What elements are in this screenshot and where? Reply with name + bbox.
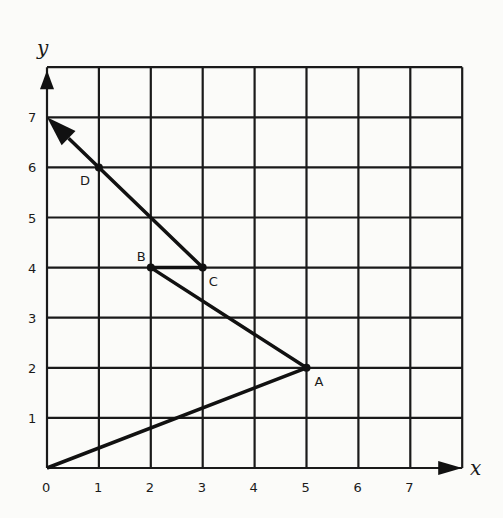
x-tick-label: 0 <box>42 480 50 495</box>
point-marker <box>95 163 103 171</box>
point-label-b: B <box>137 249 146 264</box>
point-label-a: A <box>315 374 324 389</box>
axes <box>40 70 462 475</box>
y-tick-label: 3 <box>28 311 36 326</box>
y-axis-arrow-icon <box>40 70 54 89</box>
coordinate-grid: 012345671234567 ABCD x y <box>0 0 503 518</box>
y-tick-label: 2 <box>28 361 36 376</box>
x-tick-label: 6 <box>353 480 361 495</box>
x-tick-label: 1 <box>94 480 102 495</box>
point-marker <box>303 364 311 372</box>
point-marker <box>147 264 155 272</box>
point-label-c: C <box>209 274 218 289</box>
x-axis-label: x <box>470 456 481 480</box>
x-tick-label: 5 <box>302 480 310 495</box>
y-tick-label: 7 <box>28 110 36 125</box>
y-tick-label: 6 <box>28 160 36 175</box>
y-axis-label: y <box>36 36 49 60</box>
x-tick-label: 2 <box>146 480 154 495</box>
x-tick-label: 7 <box>405 480 413 495</box>
path <box>47 117 307 468</box>
y-tick-label: 1 <box>28 411 36 426</box>
grid-lines <box>47 67 462 468</box>
x-tick-label: 4 <box>250 480 258 495</box>
y-tick-label: 4 <box>28 261 36 276</box>
x-axis-arrow-icon <box>438 461 462 475</box>
y-tick-label: 5 <box>28 211 36 226</box>
point-label-d: D <box>80 173 90 188</box>
point-marker <box>199 264 207 272</box>
x-tick-label: 3 <box>198 480 206 495</box>
